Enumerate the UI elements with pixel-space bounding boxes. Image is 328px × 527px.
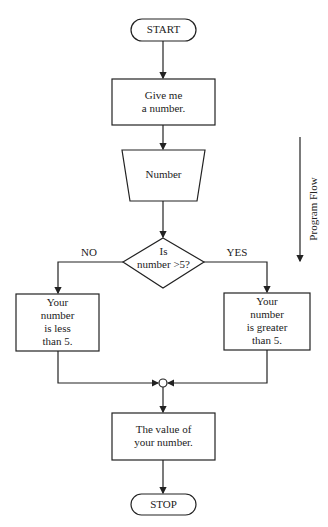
greater-line-4: than 5. bbox=[224, 334, 310, 347]
input-label: Number bbox=[122, 168, 205, 181]
output-line-2: your number. bbox=[112, 436, 215, 449]
arrow-yes-branch bbox=[204, 262, 267, 292]
decision-line-1: Is bbox=[123, 245, 204, 258]
output-line-1: The value of bbox=[112, 423, 215, 436]
stop-label: STOP bbox=[131, 498, 196, 511]
prompt-line-1: Give me bbox=[112, 89, 215, 102]
no-branch-label: NO bbox=[76, 246, 102, 259]
arrow-less-to-junction bbox=[58, 351, 158, 383]
greater-line-2: number bbox=[224, 308, 310, 321]
yes-branch-label: YES bbox=[222, 246, 252, 259]
decision-line-2: number >5? bbox=[123, 258, 204, 271]
decision-label: Is number >5? bbox=[123, 245, 204, 271]
less-line-2: number bbox=[16, 309, 99, 322]
junction-connector bbox=[159, 379, 167, 387]
output-label: The value of your number. bbox=[112, 423, 215, 449]
arrow-no-branch bbox=[58, 262, 123, 293]
less-line-1: Your bbox=[16, 296, 99, 309]
prompt-label: Give me a number. bbox=[112, 89, 215, 115]
greater-label: Your number is greater than 5. bbox=[224, 295, 310, 347]
prompt-line-2: a number. bbox=[112, 102, 215, 115]
start-label: START bbox=[131, 23, 196, 36]
less-label: Your number is less than 5. bbox=[16, 296, 99, 348]
program-flow-label: Program Flow bbox=[307, 174, 319, 244]
less-line-4: than 5. bbox=[16, 335, 99, 348]
greater-line-1: Your bbox=[224, 295, 310, 308]
less-line-3: is less bbox=[16, 322, 99, 335]
greater-line-3: is greater bbox=[224, 321, 310, 334]
arrow-greater-to-junction bbox=[168, 350, 267, 383]
